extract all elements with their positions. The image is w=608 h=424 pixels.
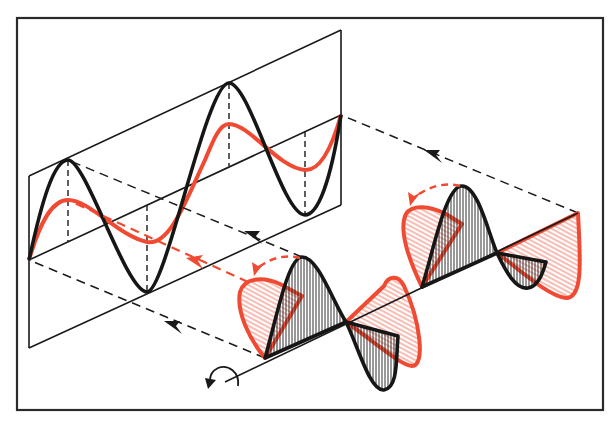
red-rotation-arrowhead-icon: [408, 192, 421, 206]
red-rotation-arrowhead-icon: [252, 262, 265, 276]
red-arrow-icon: [186, 255, 203, 269]
polarization-diagram: [0, 0, 608, 424]
black-lobe-2: [346, 322, 398, 390]
diagram-canvas: [0, 0, 608, 424]
red-projection-line: [68, 200, 248, 282]
arrow-icon: [424, 150, 442, 163]
